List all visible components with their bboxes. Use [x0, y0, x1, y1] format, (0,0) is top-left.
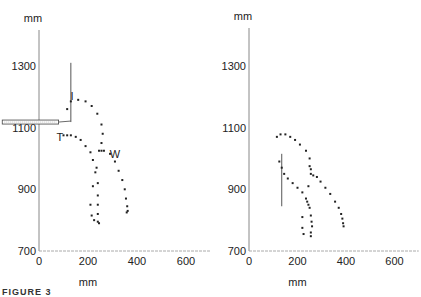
data-point — [97, 182, 99, 184]
x-tick-label: 600 — [177, 255, 195, 267]
figure-caption: FIGURE 3 — [2, 287, 52, 297]
right-plot: 700900110013000200400600mmmm — [222, 10, 419, 288]
data-point — [98, 222, 100, 224]
data-point — [305, 150, 307, 152]
data-point — [284, 133, 286, 135]
data-point — [310, 173, 312, 175]
data-point — [114, 161, 116, 163]
data-point — [310, 168, 312, 170]
data-point — [299, 144, 301, 146]
x-tick-label: 0 — [246, 255, 252, 267]
data-point — [103, 150, 105, 152]
data-point — [334, 201, 336, 203]
data-point — [96, 113, 98, 115]
data-point — [301, 191, 303, 193]
data-point — [100, 150, 102, 152]
data-point — [287, 178, 289, 180]
x-axis-label: mm — [288, 276, 306, 288]
data-point — [126, 205, 128, 207]
data-point — [77, 99, 79, 101]
data-point — [310, 235, 312, 237]
data-point — [289, 136, 291, 138]
y-tick-label: 1300 — [222, 60, 246, 72]
data-point — [341, 218, 343, 220]
data-point — [124, 188, 126, 190]
x-axis-label: mm — [79, 276, 97, 288]
data-point — [92, 159, 94, 161]
data-point — [320, 181, 322, 183]
y-tick-label: 1100 — [222, 122, 246, 134]
data-point — [309, 165, 311, 167]
data-point — [305, 198, 307, 200]
data-point — [294, 139, 296, 141]
data-point — [307, 204, 309, 206]
data-point — [312, 174, 314, 176]
data-point — [343, 225, 345, 227]
data-point — [311, 221, 313, 223]
x-tick-label: 400 — [128, 255, 146, 267]
data-point — [292, 182, 294, 184]
data-point — [89, 204, 91, 206]
left-plot: 700900110013000200400600mmmmITW — [2, 12, 210, 288]
data-point — [96, 167, 98, 169]
data-point — [125, 198, 127, 200]
data-point — [307, 185, 309, 187]
data-point — [97, 204, 99, 206]
data-point — [303, 233, 305, 235]
data-point — [316, 176, 318, 178]
y-tick-label: 700 — [18, 245, 36, 257]
data-point — [310, 231, 312, 233]
data-point — [342, 222, 344, 224]
data-point — [310, 215, 312, 217]
data-point — [94, 171, 96, 173]
data-point — [100, 142, 102, 144]
data-point — [98, 150, 100, 152]
data-point — [97, 213, 99, 215]
data-point — [75, 136, 77, 138]
x-tick-label: 400 — [337, 255, 355, 267]
x-tick-label: 200 — [79, 255, 97, 267]
y-tick-label: 900 — [18, 183, 36, 195]
rod-joint — [59, 121, 71, 122]
data-point — [92, 185, 94, 187]
y-tick-label: 900 — [228, 183, 246, 195]
annotation-w: W — [110, 148, 121, 160]
data-point — [276, 136, 278, 138]
data-point — [297, 187, 299, 189]
annotation-t: T — [56, 131, 63, 143]
y-tick-label: 700 — [228, 245, 246, 257]
x-tick-label: 200 — [288, 255, 306, 267]
x-tick-label: 600 — [385, 255, 403, 267]
data-point — [121, 179, 123, 181]
data-point — [281, 167, 283, 169]
data-point — [66, 134, 68, 136]
data-point — [301, 227, 303, 229]
data-point — [324, 187, 326, 189]
data-point — [283, 173, 285, 175]
data-point — [93, 219, 95, 221]
data-point — [100, 124, 102, 126]
data-point — [80, 139, 82, 141]
annotation-i: I — [71, 90, 74, 102]
data-point — [309, 157, 311, 159]
data-point — [340, 213, 342, 215]
data-point — [102, 133, 104, 135]
data-point — [85, 100, 87, 102]
data-point — [278, 161, 280, 163]
data-point — [118, 170, 120, 172]
data-point — [338, 207, 340, 209]
data-point — [85, 145, 87, 147]
data-point — [70, 134, 72, 136]
x-tick-label: 0 — [36, 255, 42, 267]
y-tick-label: 1300 — [12, 60, 36, 72]
data-point — [280, 133, 282, 135]
data-point — [329, 193, 331, 195]
data-point — [309, 207, 311, 209]
data-point — [91, 215, 93, 217]
data-point — [301, 216, 303, 218]
data-point — [91, 105, 93, 107]
data-point — [97, 194, 99, 196]
data-point — [89, 151, 91, 153]
data-point — [306, 201, 308, 203]
